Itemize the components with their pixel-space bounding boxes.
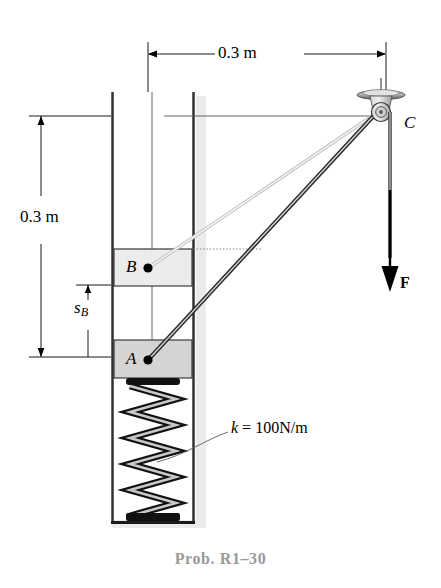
horizontal-dimension-label: 0.3 m: [218, 44, 257, 61]
point-label-c: C: [404, 114, 415, 131]
attachment-point-b: [143, 263, 152, 272]
vertical-dimension-sb: [76, 285, 112, 357]
attachment-point-a: [143, 355, 152, 364]
sb-dimension-label-sub: B: [81, 305, 88, 319]
spring-stiffness-value: 100N/m: [255, 419, 307, 436]
point-label-a: A: [126, 350, 136, 367]
vertical-dimension-label: 0.3 m: [20, 208, 59, 225]
pulley-assembly: [357, 78, 405, 122]
sb-dimension-label: sB: [74, 299, 88, 319]
force-label-f: F: [400, 275, 410, 291]
point-label-b: B: [126, 258, 136, 275]
cord-b-to-c: [148, 112, 378, 268]
horizontal-dimension: [148, 42, 386, 92]
spring-stiffness-symbol: k: [231, 419, 238, 436]
figure-root: 0.3 m 0.3 m sB B A C F k = 100N/m Prob. …: [0, 0, 441, 588]
spring-stiffness-equals: =: [242, 419, 251, 436]
force-arrow-f: [382, 190, 399, 292]
vertical-dimension-total: [29, 116, 112, 357]
sb-dimension-label-main: s: [74, 298, 81, 317]
physics-diagram-svg: [0, 0, 441, 588]
cord-a-to-c: [148, 110, 379, 360]
figure-caption: Prob. R1–30: [0, 550, 441, 568]
spring-stiffness-label: k = 100N/m: [231, 420, 308, 436]
spring: [126, 378, 180, 521]
